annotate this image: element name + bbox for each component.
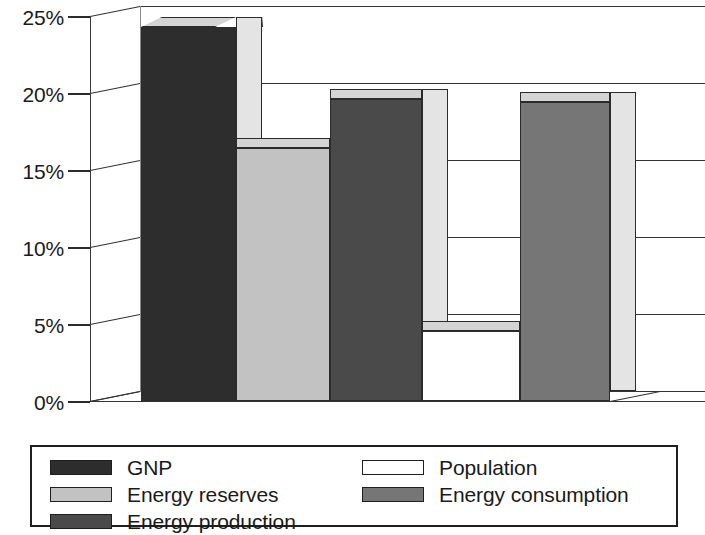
depth-connector xyxy=(90,237,140,248)
legend-column-right: Population Energy consumption xyxy=(362,454,629,508)
y-axis-tick-mark xyxy=(68,93,90,95)
depth-connector xyxy=(90,83,140,94)
depth-connector xyxy=(90,6,140,17)
legend-item-energy-production: Energy production xyxy=(50,508,296,535)
gridline xyxy=(140,6,705,7)
y-axis-tick-label: 0% xyxy=(0,392,64,413)
legend-item-energy-reserves: Energy reserves xyxy=(50,481,296,508)
y-axis-tick-mark xyxy=(68,324,90,326)
legend-swatch-icon xyxy=(50,460,112,475)
legend-label: Energy consumption xyxy=(439,484,629,505)
bar-top-face xyxy=(236,138,330,148)
y-axis-tick-label: 10% xyxy=(0,238,64,259)
y-axis-line xyxy=(90,16,91,402)
depth-connector xyxy=(90,314,140,325)
bar-front-face xyxy=(520,102,610,401)
bar-energy-production xyxy=(330,89,422,401)
legend-label: Population xyxy=(439,457,537,478)
legend-label: Energy production xyxy=(127,511,296,532)
legend-swatch-icon xyxy=(362,460,424,475)
bar-top-face xyxy=(422,321,520,331)
bar-front-face xyxy=(236,148,330,401)
bar-front-face xyxy=(330,99,422,401)
y-axis-tick-label: 5% xyxy=(0,315,64,336)
legend-swatch-icon xyxy=(362,487,424,502)
legend-swatch-icon xyxy=(50,487,112,502)
legend-item-population: Population xyxy=(362,454,629,481)
plot-area: 25% 20% 15% 10% 5% 0% xyxy=(0,0,705,425)
y-axis-tick-label: 25% xyxy=(0,7,64,28)
legend-swatch-icon xyxy=(50,514,112,529)
bar-top-face xyxy=(330,89,422,99)
bar-right-face xyxy=(610,92,636,391)
legend-column-left: GNP Energy reserves Energy production xyxy=(50,454,296,535)
legend-item-gnp: GNP xyxy=(50,454,296,481)
legend-label: GNP xyxy=(127,457,172,478)
bar-front-face xyxy=(422,331,520,401)
y-axis-labels: 25% 20% 15% 10% 5% 0% xyxy=(0,0,64,425)
bar-front-face xyxy=(141,27,236,401)
y-axis-tick-mark xyxy=(68,16,90,18)
bar-energy-consumption xyxy=(520,92,610,401)
bar-top-face xyxy=(520,92,610,102)
y-axis-tick-label: 20% xyxy=(0,84,64,105)
depth-connector xyxy=(90,160,140,171)
y-axis-tick-label: 15% xyxy=(0,161,64,182)
chart-legend: GNP Energy reserves Energy production Po… xyxy=(30,445,678,527)
y-axis-tick-mark xyxy=(68,247,90,249)
bar-population xyxy=(422,321,520,401)
y-axis-tick-mark xyxy=(68,170,90,172)
bar-chart-figure: 25% 20% 15% 10% 5% 0% xyxy=(0,0,705,535)
bar-gnp xyxy=(141,17,236,401)
y-axis-tick-mark xyxy=(68,401,90,403)
bar-energy-reserves xyxy=(236,138,330,401)
bar-top-face xyxy=(141,17,236,27)
legend-item-energy-consumption: Energy consumption xyxy=(362,481,629,508)
legend-label: Energy reserves xyxy=(127,484,278,505)
